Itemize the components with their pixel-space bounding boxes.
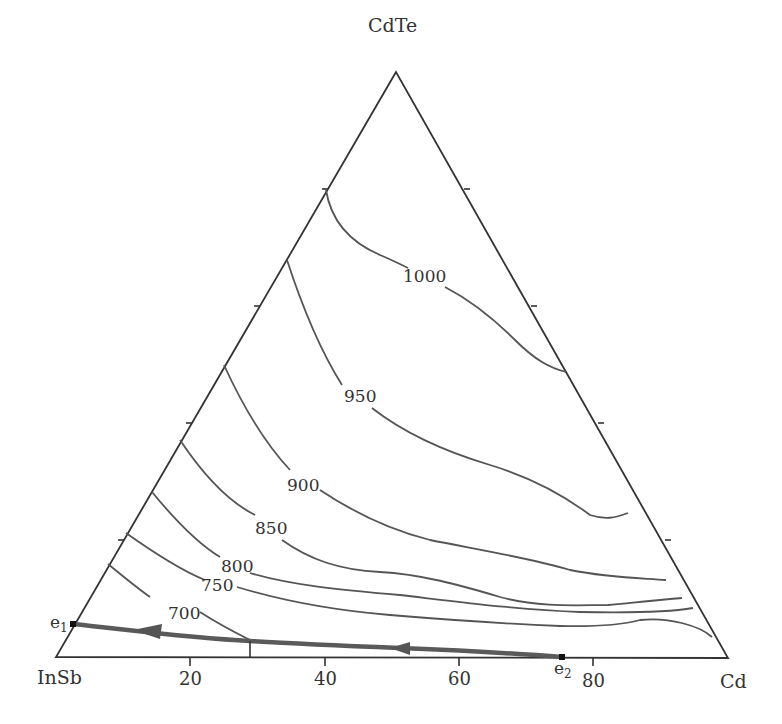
triangle-frame — [56, 72, 728, 658]
point-label-e2-text: e — [554, 658, 564, 678]
point-label-e1-sub: 1 — [60, 621, 68, 635]
vertex-label-cd: Cd — [720, 670, 747, 692]
eutectic-point-e1 — [70, 621, 76, 627]
isotherm-label-750: 750 — [201, 575, 233, 595]
axis-tick-label: 40 — [314, 668, 337, 689]
ternary-diagram — [0, 0, 782, 724]
arrow-left-icon — [390, 642, 410, 655]
point-label-e2: e2 — [554, 658, 572, 681]
isotherm-label-700: 700 — [168, 603, 200, 623]
vertex-label-insb: InSb — [37, 666, 82, 688]
isotherm-label-850: 850 — [255, 518, 287, 538]
isotherm-950 — [287, 260, 628, 518]
isotherm-label-900: 900 — [287, 475, 319, 495]
isotherm-900 — [224, 365, 666, 580]
axis-tick-label: 80 — [582, 670, 605, 691]
point-label-e1-text: e — [50, 612, 60, 632]
point-label-e1: e1 — [50, 612, 68, 635]
axis-tick-label: 60 — [448, 668, 471, 689]
point-label-e2-sub: 2 — [564, 667, 572, 681]
isotherm-label-800: 800 — [221, 556, 253, 576]
isotherm-label-1000: 1000 — [403, 266, 446, 286]
isotherm-label-950: 950 — [344, 386, 376, 406]
right-ticks — [464, 189, 671, 540]
axis-tick-label: 20 — [179, 668, 202, 689]
vertex-label-cdte: CdTe — [368, 14, 417, 36]
